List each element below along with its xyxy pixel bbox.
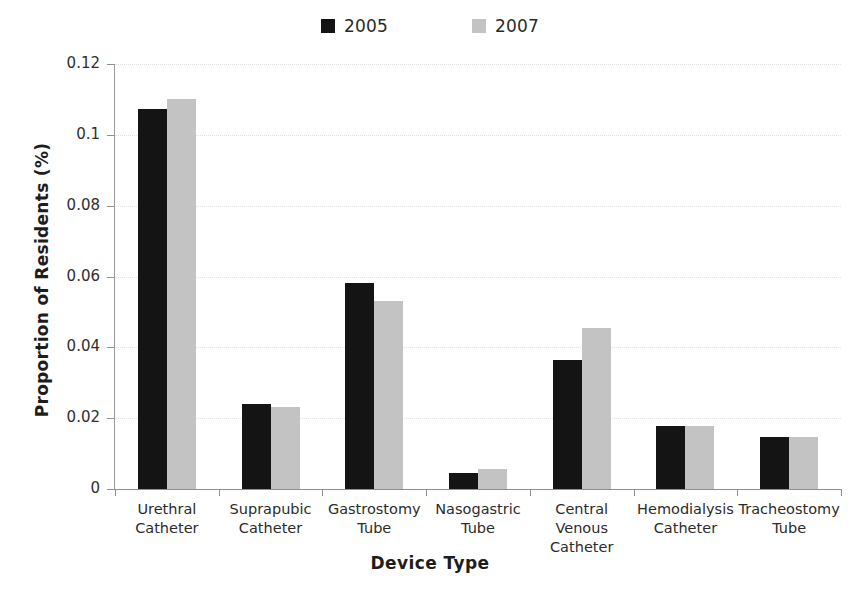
- x-category-label-line: Urethral: [115, 500, 219, 519]
- bar-2005-suprapubic-catheter: [242, 404, 271, 489]
- bar-2005-urethral-catheter: [138, 109, 167, 489]
- y-tick-label: 0: [28, 479, 100, 497]
- bar-2007-hemodialysis-catheter: [685, 426, 714, 489]
- x-category-label-line: Catheter: [115, 519, 219, 538]
- bars-layer: [115, 64, 841, 489]
- bar-2005-central-venous-catheter: [553, 360, 582, 489]
- x-category-label-line: Central Venous: [530, 500, 634, 538]
- legend-entry-2005: 2005: [321, 16, 388, 36]
- x-axis-line: [114, 489, 841, 490]
- legend-swatch-2005: [321, 19, 335, 33]
- x-category-label: UrethralCatheter: [115, 500, 219, 538]
- x-tick-mark: [115, 489, 116, 496]
- y-axis-title: Proportion of Residents (%): [32, 90, 52, 470]
- legend-swatch-2007: [472, 19, 486, 33]
- legend-entry-2007: 2007: [472, 16, 539, 36]
- x-category-label-line: Catheter: [634, 519, 738, 538]
- x-category-label-line: Catheter: [219, 519, 323, 538]
- x-tick-mark: [737, 489, 738, 496]
- x-category-label: HemodialysisCatheter: [634, 500, 738, 538]
- x-category-label: GastrostomyTube: [322, 500, 426, 538]
- x-category-label-line: Tube: [426, 519, 530, 538]
- x-tick-mark: [426, 489, 427, 496]
- x-tick-mark: [219, 489, 220, 496]
- chart-legend: 2005 2007: [0, 10, 860, 42]
- x-category-label-line: Tube: [737, 519, 841, 538]
- x-category-label-line: Hemodialysis: [634, 500, 738, 519]
- bar-2007-tracheostomy-tube: [789, 437, 818, 489]
- x-category-label-line: Tracheostomy: [737, 500, 841, 519]
- x-category-label: Central VenousCatheter: [530, 500, 634, 557]
- bar-2005-tracheostomy-tube: [760, 437, 789, 489]
- legend-label-2007: 2007: [495, 16, 539, 36]
- x-category-label-line: Tube: [322, 519, 426, 538]
- x-tick-mark: [530, 489, 531, 496]
- x-tick-mark: [634, 489, 635, 496]
- legend-label-2005: 2005: [344, 16, 388, 36]
- x-category-label: NasogastricTube: [426, 500, 530, 538]
- x-category-label: SuprapubicCatheter: [219, 500, 323, 538]
- x-category-label: TracheostomyTube: [737, 500, 841, 538]
- x-category-label-line: Nasogastric: [426, 500, 530, 519]
- bar-2007-central-venous-catheter: [582, 328, 611, 489]
- bar-2007-nasogastric-tube: [478, 469, 507, 489]
- x-category-label-line: Suprapubic: [219, 500, 323, 519]
- x-tick-mark: [322, 489, 323, 496]
- x-axis-title: Device Type: [0, 553, 860, 573]
- x-tick-mark: [841, 489, 842, 496]
- bar-2007-urethral-catheter: [167, 99, 196, 489]
- bar-chart: 2005 2007 00.020.040.060.080.10.12 Ureth…: [0, 0, 860, 589]
- bar-2005-hemodialysis-catheter: [656, 426, 685, 489]
- bar-2005-gastrostomy-tube: [345, 283, 374, 489]
- bar-2007-gastrostomy-tube: [374, 301, 403, 489]
- bar-2005-nasogastric-tube: [449, 473, 478, 489]
- bar-2007-suprapubic-catheter: [271, 407, 300, 489]
- x-category-label-line: Gastrostomy: [322, 500, 426, 519]
- y-tick-label: 0.12: [28, 54, 100, 72]
